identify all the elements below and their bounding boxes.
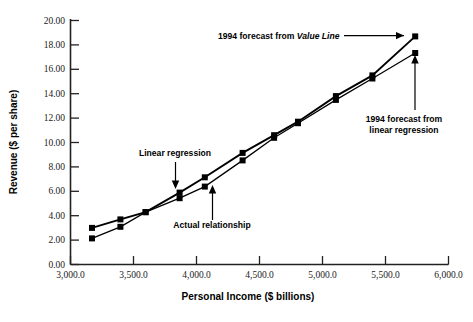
y-tick-label: 18.00 (44, 40, 66, 50)
annotation-text: Actual relationship (173, 220, 250, 230)
data-point (117, 216, 123, 222)
y-tick-label: 8.00 (48, 162, 65, 172)
data-point (240, 150, 246, 156)
y-tick-label: 20.00 (44, 16, 66, 26)
data-point (143, 209, 149, 215)
data-point (412, 50, 418, 56)
y-tick-label: 4.00 (48, 211, 65, 221)
x-axis-title: Personal Income ($ billions) (182, 291, 315, 302)
revenue-vs-personal-income-chart: 0.00 2.00 4.00 6.00 8.00 10.00 12.00 14.… (0, 0, 473, 322)
data-point (412, 33, 418, 39)
data-point (89, 225, 95, 231)
annotation-text-plain: 1994 forecast from (218, 31, 297, 41)
data-point (89, 235, 95, 241)
x-tick-label: 3,500.0 (119, 270, 148, 280)
data-point (333, 93, 339, 99)
data-point (202, 174, 208, 180)
y-tick-label: 6.00 (48, 186, 65, 196)
data-point (295, 119, 301, 125)
chart-figure: 0.00 2.00 4.00 6.00 8.00 10.00 12.00 14.… (0, 0, 473, 322)
data-point (369, 72, 375, 78)
x-tick-label: 4,000.0 (182, 270, 211, 280)
y-tick-label: 12.00 (44, 113, 66, 123)
y-axis-title: Revenue ($ per share) (8, 90, 19, 195)
data-point (177, 195, 183, 201)
data-point (271, 132, 277, 138)
data-point (202, 184, 208, 190)
x-tick-label: 6,000.0 (434, 270, 463, 280)
y-tick-label: 10.00 (44, 138, 66, 148)
x-tick-label: 5,000.0 (308, 270, 337, 280)
x-tick-label: 5,500.0 (371, 270, 400, 280)
data-point (117, 224, 123, 230)
y-tick-label: 16.00 (44, 64, 66, 74)
annotation-line-2: linear regression (369, 125, 438, 135)
y-tick-label: 0.00 (48, 260, 65, 270)
annotation-text: Linear regression (139, 148, 211, 158)
y-tick-label: 2.00 (48, 235, 65, 245)
y-tick-label: 14.00 (44, 89, 66, 99)
data-point (177, 190, 183, 196)
data-point (240, 157, 246, 163)
annotation-text-italic: Value Line (297, 31, 340, 41)
annotation-line-1: 1994 forecast from (366, 114, 443, 124)
x-tick-label: 3,000.0 (56, 270, 85, 280)
x-tick-label: 4,500.0 (245, 270, 274, 280)
annotation-text: 1994 forecast from Value Line (218, 31, 340, 41)
